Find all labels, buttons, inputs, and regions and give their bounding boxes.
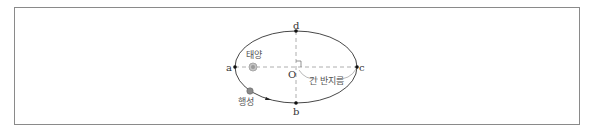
label-sun: 태양 — [246, 50, 262, 60]
label-b: b — [293, 106, 299, 117]
orbit-direction-arrow-icon — [265, 97, 271, 100]
point-a-dot — [233, 65, 237, 69]
orbit-diagram: a c d b O 태양 행성 긴 반지름 — [0, 0, 591, 134]
label-planet: 행성 — [238, 96, 254, 107]
label-a: a — [226, 62, 232, 73]
planet-icon — [247, 88, 253, 94]
label-d: d — [293, 20, 300, 31]
right-angle-marker — [296, 61, 301, 67]
label-center-o: O — [288, 69, 296, 80]
sun-core-icon — [251, 65, 255, 69]
label-c: c — [359, 62, 365, 73]
label-semi-major-axis: 긴 반지름 — [309, 76, 344, 86]
point-b-dot — [294, 101, 298, 105]
